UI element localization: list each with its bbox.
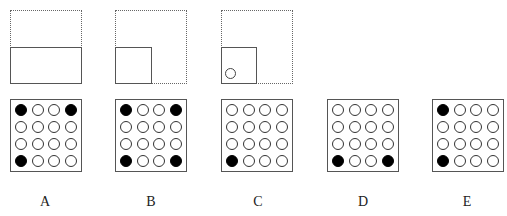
empty-circle-icon [32,104,44,116]
empty-circle-icon [170,121,182,133]
empty-circle-icon [259,138,271,150]
empty-circle-icon [32,138,44,150]
empty-circle-icon [48,138,60,150]
empty-circle-icon [120,121,132,133]
empty-circle-icon [470,155,482,167]
empty-circle-icon [276,138,288,150]
fold-step-2 [115,10,187,84]
empty-circle-icon [153,138,165,150]
folded-paper [221,47,257,84]
option-label-d[interactable]: D [343,194,383,210]
empty-circle-icon [382,104,394,116]
option-grid-b[interactable] [115,99,187,172]
empty-circle-icon [259,121,271,133]
empty-circle-icon [259,155,271,167]
filled-hole-icon [15,155,27,167]
empty-circle-icon [276,121,288,133]
empty-circle-icon [487,155,499,167]
empty-circle-icon [226,121,238,133]
fold-step-1 [10,10,82,84]
fold-step-3 [221,10,293,84]
empty-circle-icon [137,121,149,133]
filled-hole-icon [15,104,27,116]
empty-circle-icon [120,138,132,150]
empty-circle-icon [332,121,344,133]
empty-circle-icon [243,121,255,133]
empty-circle-icon [65,155,77,167]
empty-circle-icon [365,155,377,167]
empty-circle-icon [153,155,165,167]
empty-circle-icon [470,121,482,133]
empty-circle-icon [332,138,344,150]
empty-circle-icon [137,138,149,150]
empty-circle-icon [454,121,466,133]
empty-circle-icon [487,104,499,116]
empty-circle-icon [382,121,394,133]
empty-circle-icon [32,121,44,133]
empty-circle-icon [48,104,60,116]
option-grid-e[interactable] [432,99,504,172]
empty-circle-icon [226,138,238,150]
empty-circle-icon [15,138,27,150]
empty-circle-icon [437,121,449,133]
empty-circle-icon [470,138,482,150]
empty-circle-icon [365,138,377,150]
filled-hole-icon [332,155,344,167]
empty-circle-icon [276,155,288,167]
empty-circle-icon [365,121,377,133]
empty-circle-icon [349,138,361,150]
filled-hole-icon [65,104,77,116]
empty-circle-icon [454,104,466,116]
empty-circle-icon [243,138,255,150]
punched-hole-icon [225,68,236,79]
empty-circle-icon [243,155,255,167]
empty-circle-icon [349,104,361,116]
empty-circle-icon [487,121,499,133]
filled-hole-icon [170,104,182,116]
empty-circle-icon [226,104,238,116]
empty-circle-icon [65,121,77,133]
filled-hole-icon [170,155,182,167]
empty-circle-icon [48,121,60,133]
empty-circle-icon [32,155,44,167]
empty-circle-icon [487,138,499,150]
option-label-a[interactable]: A [25,194,65,210]
option-label-b[interactable]: B [131,194,171,210]
option-grid-c[interactable] [221,99,293,172]
folded-paper [115,47,152,84]
empty-circle-icon [382,138,394,150]
empty-circle-icon [349,121,361,133]
empty-circle-icon [365,104,377,116]
empty-circle-icon [276,104,288,116]
empty-circle-icon [243,104,255,116]
empty-circle-icon [137,155,149,167]
filled-hole-icon [120,104,132,116]
empty-circle-icon [259,104,271,116]
empty-circle-icon [48,155,60,167]
folded-paper [10,47,82,84]
option-label-e[interactable]: E [447,194,487,210]
empty-circle-icon [454,155,466,167]
filled-hole-icon [437,155,449,167]
empty-circle-icon [15,121,27,133]
empty-circle-icon [153,121,165,133]
option-label-c[interactable]: C [238,194,278,210]
empty-circle-icon [349,155,361,167]
empty-circle-icon [137,104,149,116]
empty-circle-icon [65,138,77,150]
filled-hole-icon [382,155,394,167]
empty-circle-icon [437,138,449,150]
empty-circle-icon [332,104,344,116]
option-grid-d[interactable] [327,99,399,172]
filled-hole-icon [226,155,238,167]
filled-hole-icon [120,155,132,167]
empty-circle-icon [153,104,165,116]
empty-circle-icon [470,104,482,116]
empty-circle-icon [454,138,466,150]
filled-hole-icon [437,104,449,116]
empty-circle-icon [170,138,182,150]
option-grid-a[interactable] [10,99,82,172]
